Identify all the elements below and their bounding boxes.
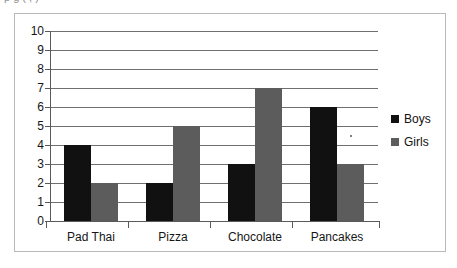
y-axis-tick-label: 1 <box>18 196 44 208</box>
y-axis-tick <box>45 50 51 51</box>
y-axis-labels: 109876543210 <box>14 0 44 268</box>
x-axis-tick <box>292 221 293 228</box>
x-axis-line <box>46 221 380 222</box>
y-axis-tick-label: 8 <box>18 63 44 75</box>
y-axis-tick <box>45 88 51 89</box>
y-axis-tick-label: 7 <box>18 82 44 94</box>
x-axis-label-pancakes: Pancakes <box>296 230 378 244</box>
y-axis-tick <box>45 107 51 108</box>
y-axis-tick-label: 5 <box>18 120 44 132</box>
x-axis-tick <box>128 221 129 228</box>
y-axis-tick <box>45 126 51 127</box>
legend-swatch-boys-icon <box>391 115 399 123</box>
y-axis-tick-label: 4 <box>18 139 44 151</box>
y-axis-tick-label: 3 <box>18 158 44 170</box>
legend-label: Girls <box>404 136 429 148</box>
bar-boys-pizza[interactable] <box>146 183 173 221</box>
y-axis-tick <box>45 31 51 32</box>
x-axis-label-chocolate: Chocolate <box>214 230 296 244</box>
gridline <box>50 88 378 89</box>
x-axis-tick <box>210 221 211 228</box>
gridline <box>50 50 378 51</box>
x-axis-label-pad-thai: Pad Thai <box>50 230 132 244</box>
y-axis-tick-label: 2 <box>18 177 44 189</box>
bar-boys-chocolate[interactable] <box>228 164 255 221</box>
y-axis-tick-label: 10 <box>18 25 44 37</box>
bar-boys-pad-thai[interactable] <box>64 145 91 221</box>
bar-girls-pancakes[interactable] <box>337 164 364 221</box>
legend-item-boys[interactable]: Boys <box>391 112 447 125</box>
bar-girls-pad-thai[interactable] <box>91 183 118 221</box>
y-axis-tick <box>45 69 51 70</box>
gridline <box>50 69 378 70</box>
y-axis-tick-label: 9 <box>18 44 44 56</box>
chart-legend: BoysGirls <box>391 112 447 158</box>
scan-artifact-speck <box>350 135 352 137</box>
y-axis-tick-label: 6 <box>18 101 44 113</box>
plot-area <box>50 31 378 221</box>
y-axis-tick-label: 0 <box>18 215 44 227</box>
bar-boys-pancakes[interactable] <box>310 107 337 221</box>
x-axis-tick <box>46 221 47 228</box>
y-axis-tick <box>45 164 51 165</box>
legend-label: Boys <box>404 113 431 125</box>
y-axis-tick <box>45 202 51 203</box>
gridline <box>50 31 378 32</box>
x-axis-tick <box>379 221 380 228</box>
bar-girls-chocolate[interactable] <box>255 88 282 221</box>
y-axis-tick <box>45 145 51 146</box>
x-axis-label-pizza: Pizza <box>132 230 214 244</box>
truncated-top-text: p g ( , ) <box>0 0 457 9</box>
y-axis-tick <box>45 183 51 184</box>
bar-girls-pizza[interactable] <box>173 126 200 221</box>
legend-swatch-girls-icon <box>391 138 399 146</box>
legend-item-girls[interactable]: Girls <box>391 135 447 148</box>
